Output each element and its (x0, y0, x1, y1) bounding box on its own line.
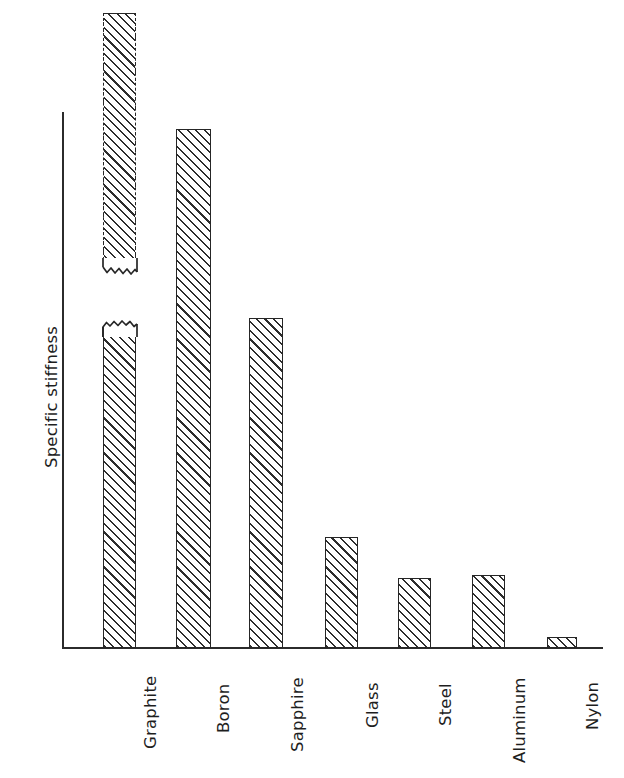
y-axis-title: Specific stiffness (42, 326, 61, 468)
bar-steel (398, 578, 431, 648)
x-axis-label-sapphire: Sapphire (288, 677, 307, 752)
bar-boron (176, 129, 211, 648)
x-axis-label-glass: Glass (363, 682, 382, 728)
x-axis-label-aluminum: Aluminum (510, 677, 529, 763)
bar-nylon (547, 637, 577, 648)
x-axis-label-nylon: Nylon (583, 682, 602, 730)
bar-chart-figure: Specific stiffness Graphite Boron Sapphi… (0, 0, 624, 778)
y-axis-line (62, 112, 64, 649)
bar-glass (325, 537, 358, 648)
bar-graphite-lower (103, 330, 136, 648)
x-axis-label-graphite: Graphite (141, 676, 160, 749)
bar-aluminum (472, 575, 505, 648)
x-axis-label-steel: Steel (436, 683, 455, 726)
bar-sapphire (249, 318, 283, 648)
bar-graphite-upper-offscale (103, 13, 136, 265)
x-axis-label-boron: Boron (214, 684, 233, 733)
